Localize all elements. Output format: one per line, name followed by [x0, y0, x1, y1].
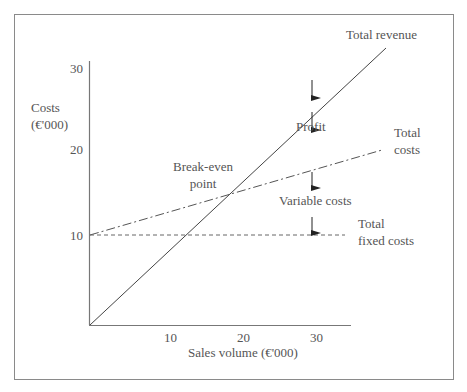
- y-axis-title-line1: Costs: [31, 100, 60, 116]
- y-tick-20: 20: [70, 142, 83, 158]
- x-axis-title: Sales volume (€'000): [188, 345, 298, 361]
- y-axis-title-line2: (€'000): [31, 117, 68, 133]
- total-revenue-label: Total revenue: [346, 27, 417, 43]
- break-even-label-line2: point: [168, 176, 238, 192]
- y-tick-30: 30: [70, 61, 83, 77]
- total-costs-label-line2: costs: [394, 142, 420, 158]
- break-even-label-line1: Break-even: [168, 159, 238, 175]
- total-costs-label-line1: Total: [394, 125, 421, 141]
- fixed-costs-label-line1: Total: [358, 216, 385, 232]
- y-tick-10: 10: [70, 228, 83, 244]
- total-revenue-line: [90, 48, 386, 325]
- x-tick-30: 30: [310, 330, 323, 346]
- x-tick-10: 10: [164, 330, 177, 346]
- fixed-costs-label-line2: fixed costs: [358, 233, 414, 249]
- x-tick-20: 20: [237, 330, 250, 346]
- profit-label: Profit: [296, 119, 326, 135]
- break-even-plot: [0, 0, 467, 392]
- variable-costs-label: Variable costs: [279, 193, 352, 209]
